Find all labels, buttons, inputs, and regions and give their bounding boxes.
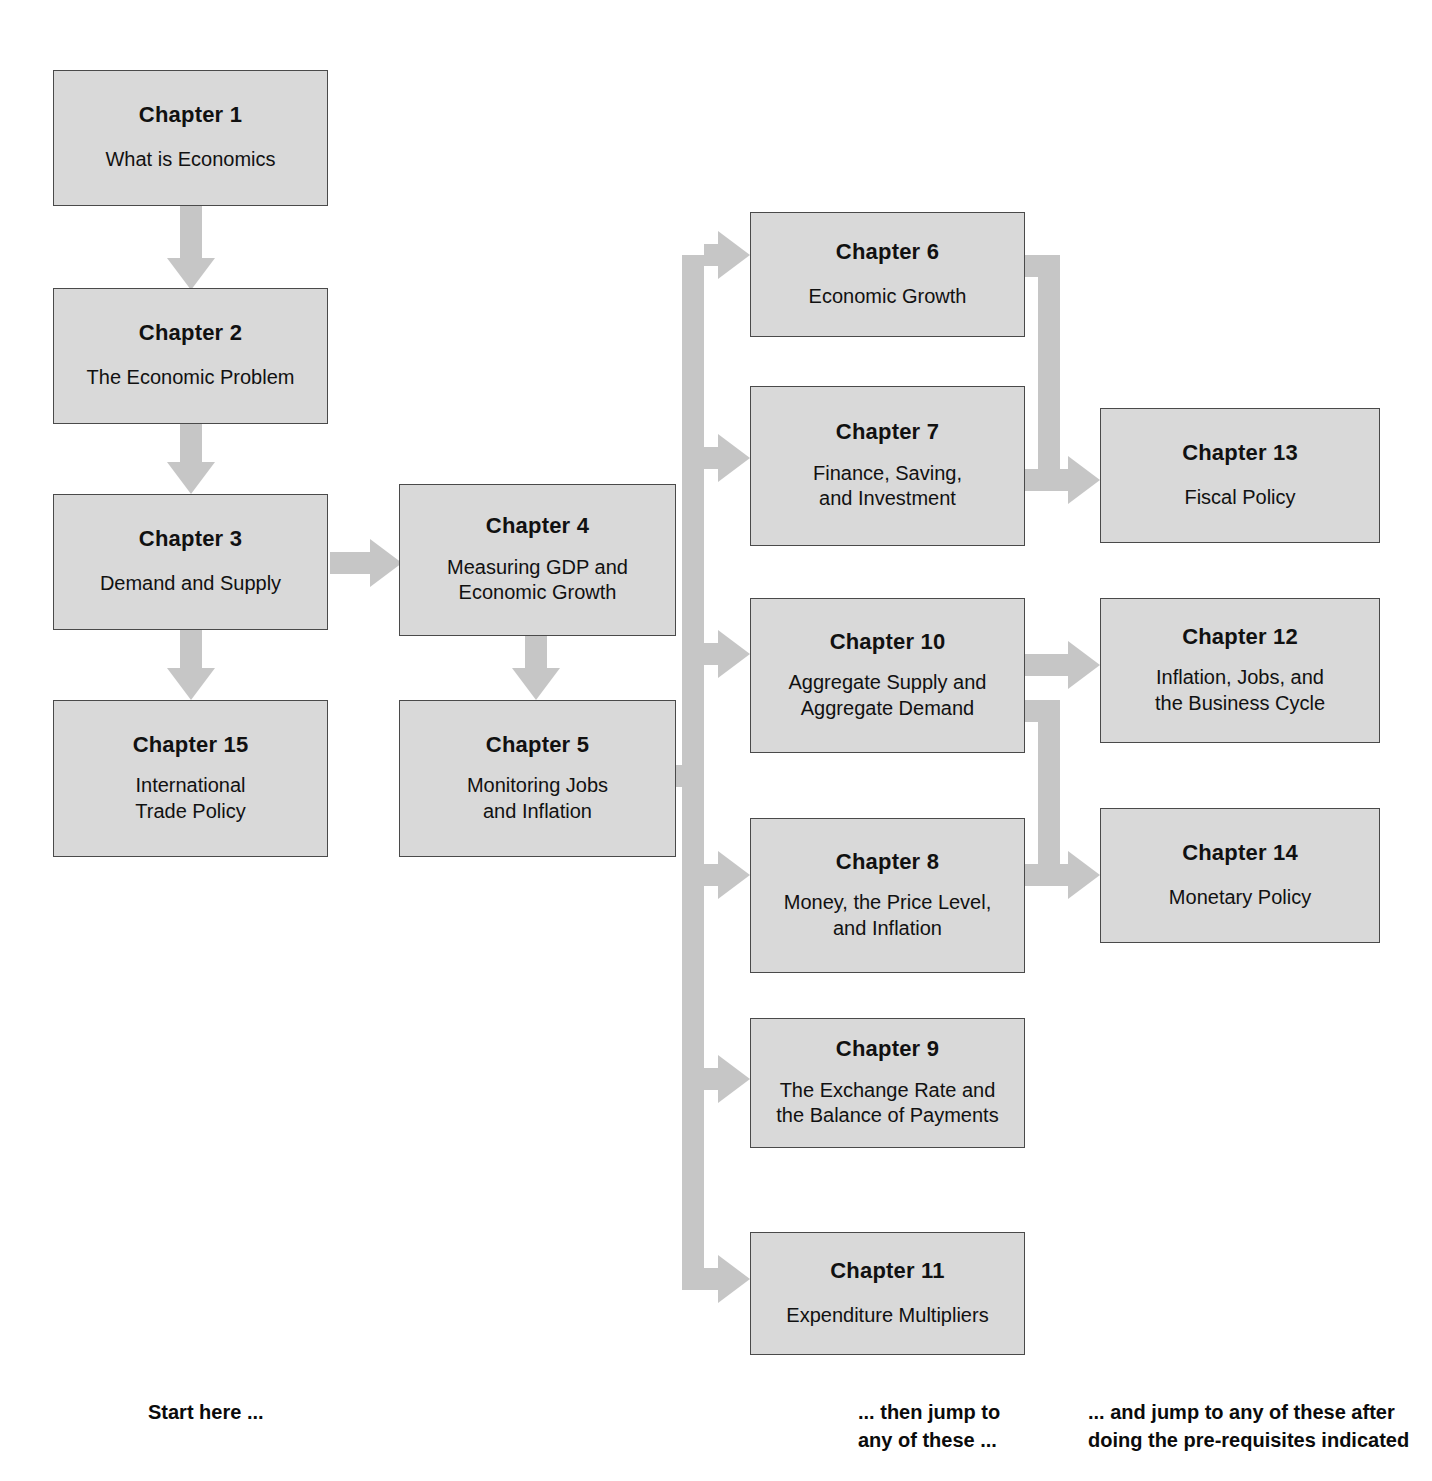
node-chapter-12[interactable]: Chapter 12 Inflation, Jobs, and the Busi… — [1100, 598, 1380, 743]
node-chapter-13[interactable]: Chapter 13 Fiscal Policy — [1100, 408, 1380, 543]
caption-middle: ... then jump to any of these ... — [858, 1398, 1000, 1454]
node-title: Chapter 14 — [1182, 841, 1298, 865]
node-subtitle: The Exchange Rate and the Balance of Pay… — [776, 1078, 998, 1129]
node-subtitle: Expenditure Multipliers — [786, 1303, 988, 1329]
node-chapter-8[interactable]: Chapter 8 Money, the Price Level, and In… — [750, 818, 1025, 973]
node-subtitle: Measuring GDP and Economic Growth — [447, 555, 628, 606]
node-subtitle: The Economic Problem — [87, 365, 295, 391]
node-subtitle: Aggregate Supply and Aggregate Demand — [789, 670, 987, 721]
caption-right: ... and jump to any of these after doing… — [1088, 1398, 1409, 1454]
arrow-ch10-ch12 — [1025, 641, 1100, 689]
node-title: Chapter 9 — [836, 1037, 939, 1061]
caption-start: Start here ... — [148, 1398, 264, 1426]
merge-ch10-down — [1038, 700, 1060, 876]
arrow-ch5-ch9 — [704, 1055, 750, 1103]
merge-ch6-down — [1038, 255, 1060, 491]
arrow-ch3-ch15 — [167, 629, 215, 700]
node-title: Chapter 8 — [836, 850, 939, 874]
arrow-ch2-ch3 — [167, 422, 215, 494]
node-subtitle: International Trade Policy — [135, 773, 245, 824]
node-chapter-3[interactable]: Chapter 3 Demand and Supply — [53, 494, 328, 630]
node-chapter-7[interactable]: Chapter 7 Finance, Saving, and Investmen… — [750, 386, 1025, 546]
node-chapter-15[interactable]: Chapter 15 International Trade Policy — [53, 700, 328, 857]
node-subtitle: Money, the Price Level, and Inflation — [784, 890, 992, 941]
arrow-ch5-ch6 — [704, 231, 750, 279]
arrow-ch5-ch7 — [704, 434, 750, 482]
node-chapter-1[interactable]: Chapter 1 What is Economics — [53, 70, 328, 206]
arrow-ch4-ch5 — [512, 635, 560, 700]
arrow-ch3-ch4 — [330, 539, 402, 587]
arrow-ch1-ch2 — [167, 205, 215, 290]
node-title: Chapter 12 — [1182, 625, 1298, 649]
node-subtitle: Demand and Supply — [100, 571, 281, 597]
node-subtitle: What is Economics — [105, 147, 275, 173]
node-title: Chapter 3 — [139, 527, 242, 551]
node-title: Chapter 4 — [486, 514, 589, 538]
node-chapter-2[interactable]: Chapter 2 The Economic Problem — [53, 288, 328, 424]
node-subtitle: Inflation, Jobs, and the Business Cycle — [1155, 665, 1325, 716]
node-title: Chapter 5 — [486, 733, 589, 757]
node-subtitle: Economic Growth — [809, 284, 967, 310]
node-title: Chapter 6 — [836, 240, 939, 264]
node-title: Chapter 15 — [133, 733, 249, 757]
arrow-ch5-ch8 — [704, 851, 750, 899]
node-subtitle: Monetary Policy — [1169, 885, 1311, 911]
node-chapter-9[interactable]: Chapter 9 The Exchange Rate and the Bala… — [750, 1018, 1025, 1148]
node-subtitle: Monitoring Jobs and Inflation — [467, 773, 608, 824]
node-chapter-5[interactable]: Chapter 5 Monitoring Jobs and Inflation — [399, 700, 676, 857]
node-title: Chapter 2 — [139, 321, 242, 345]
node-chapter-10[interactable]: Chapter 10 Aggregate Supply and Aggregat… — [750, 598, 1025, 753]
node-chapter-14[interactable]: Chapter 14 Monetary Policy — [1100, 808, 1380, 943]
node-title: Chapter 1 — [139, 103, 242, 127]
node-chapter-6[interactable]: Chapter 6 Economic Growth — [750, 212, 1025, 337]
arrow-ch5-ch11 — [704, 1255, 750, 1303]
arrow-ch5-ch10 — [704, 630, 750, 678]
spine-trunk-cap — [682, 255, 704, 267]
node-title: Chapter 11 — [830, 1259, 945, 1283]
node-subtitle: Fiscal Policy — [1184, 485, 1295, 511]
spine-trunk — [682, 255, 704, 1290]
node-subtitle: Finance, Saving, and Investment — [813, 461, 962, 512]
node-title: Chapter 10 — [830, 630, 946, 654]
flowchart-canvas: Chapter 1 What is Economics Chapter 2 Th… — [0, 0, 1432, 1481]
node-title: Chapter 13 — [1182, 441, 1298, 465]
node-chapter-11[interactable]: Chapter 11 Expenditure Multipliers — [750, 1232, 1025, 1355]
node-title: Chapter 7 — [836, 420, 939, 444]
node-chapter-4[interactable]: Chapter 4 Measuring GDP and Economic Gro… — [399, 484, 676, 636]
